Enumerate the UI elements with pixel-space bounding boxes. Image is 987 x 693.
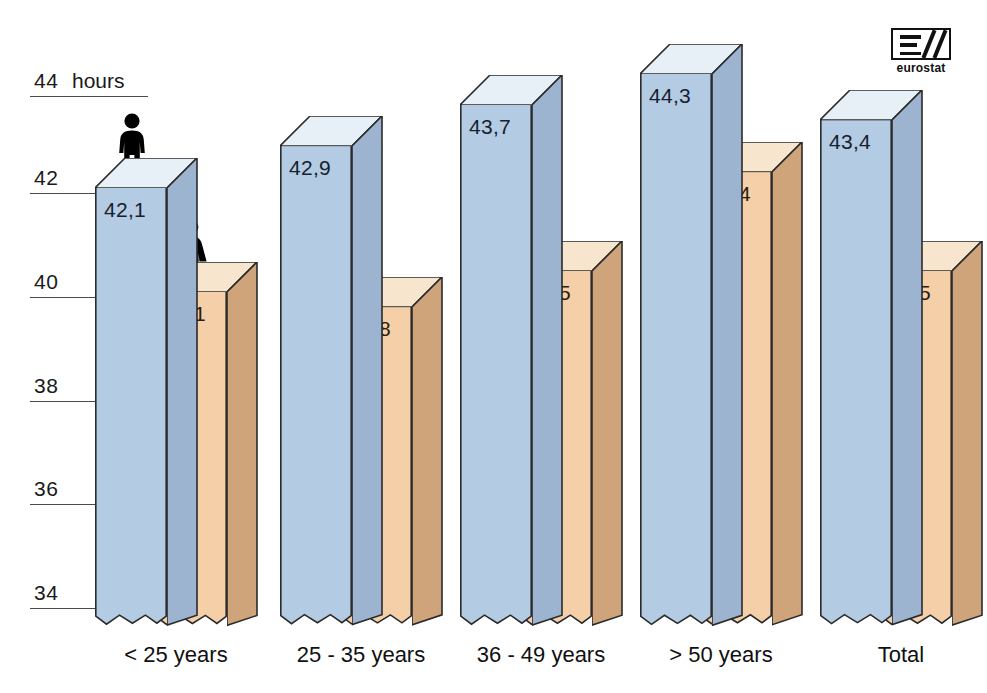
bar-side-outline (352, 116, 384, 627)
bar-front-outline (280, 146, 354, 627)
y-axis-tick-42 (30, 193, 100, 194)
y-axis-tick-44 (30, 96, 148, 97)
bar-side-outline (952, 241, 984, 627)
y-axis-tick-34 (30, 608, 100, 609)
eurostat-logo-text: eurostat (891, 61, 951, 75)
category-label-g5: Total (800, 642, 987, 668)
bar-men-g1: 42,1 (95, 158, 197, 625)
y-axis-label-42: 42 (34, 166, 58, 190)
bar-front-outline (820, 120, 894, 627)
bar-side-outline (592, 241, 624, 627)
y-axis-label-38: 38 (34, 374, 58, 398)
bar-value-label: 43,4 (829, 130, 871, 154)
y-axis-tick-38 (30, 401, 100, 402)
y-axis-label-34: 34 (34, 581, 58, 605)
bar-side-outline (412, 277, 444, 627)
y-axis-label-40: 40 (34, 270, 58, 294)
bar-side-outline (227, 262, 259, 627)
bar-side-outline (712, 44, 744, 627)
y-axis-tick-40 (30, 297, 100, 298)
bar-front-outline (95, 188, 169, 627)
bar-value-label: 43,7 (469, 115, 511, 139)
category-label-g4: > 50 years (620, 642, 822, 668)
bar-value-label: 42,9 (289, 156, 331, 180)
bar-side-outline (167, 158, 199, 627)
y-axis-label-36: 36 (34, 477, 58, 501)
bar-side-outline (892, 90, 924, 627)
bar-front-outline (460, 105, 534, 627)
bar-men-g4: 44,3 (640, 44, 742, 625)
y-axis-tick-36 (30, 504, 100, 505)
bar-men-g5: 43,4 (820, 90, 922, 625)
eurostat-logo: eurostat (891, 28, 951, 75)
bar-men-g3: 43,7 (460, 75, 562, 625)
bar-men-g2: 42,9 (280, 116, 382, 625)
y-axis-label-44: 44 (34, 69, 58, 93)
bar-value-label: 44,3 (649, 84, 691, 108)
category-label-g1: < 25 years (75, 642, 277, 668)
category-label-g2: 25 - 35 years (260, 642, 462, 668)
bar-front-outline (640, 74, 714, 627)
y-axis-unit-label: hours (72, 69, 125, 93)
category-label-g3: 36 - 49 years (440, 642, 642, 668)
eurostat-logo-mark (891, 28, 951, 60)
bar-side-outline (772, 142, 804, 627)
bar-value-label: 42,1 (104, 198, 146, 222)
bar-side-outline (532, 75, 564, 627)
